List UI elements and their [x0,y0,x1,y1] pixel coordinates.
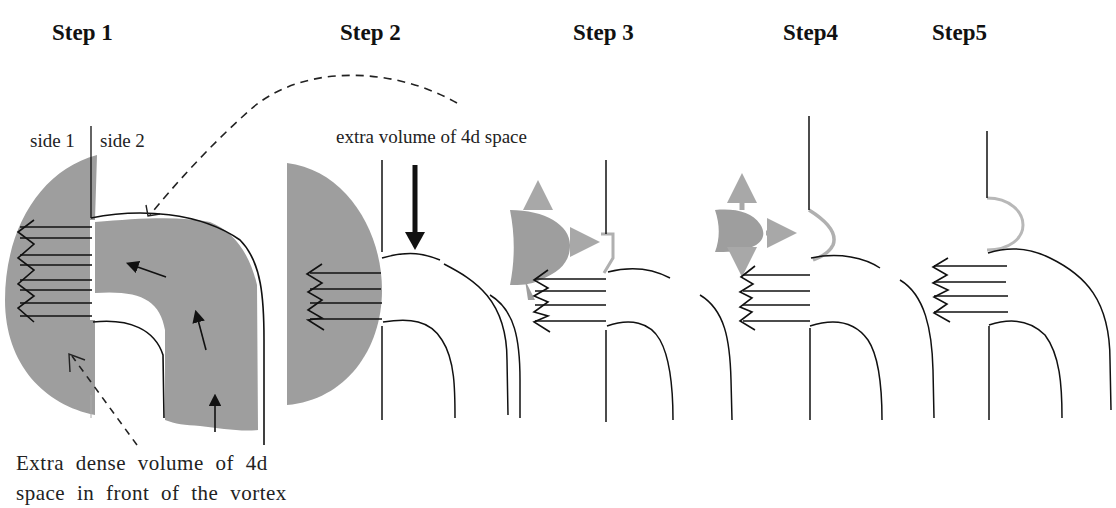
step-3-diagram [490,160,673,422]
caption: Extra dense volume of 4d space in front … [16,448,287,508]
step-4-diagram [700,116,882,420]
caption-line-1: Extra dense volume of 4d [16,448,287,478]
side-2-label: side 2 [100,130,145,152]
extra-volume-label: extra volume of 4d space [336,126,527,148]
step-2-diagram [287,160,508,420]
caption-line-2: space in front of the vortex [16,478,287,508]
step-5-diagram [900,131,1111,420]
side-1-label: side 1 [30,130,75,152]
